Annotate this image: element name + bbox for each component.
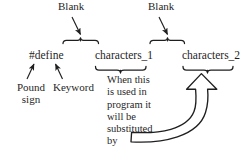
keyword-arrow (56, 64, 63, 79)
brace-characters-1 (96, 67, 147, 74)
pound-sign-arrow (27, 64, 34, 79)
characters-2-label: characters_2 (182, 49, 240, 61)
characters-1-label: characters_1 (95, 49, 153, 61)
brace-blank-left (63, 37, 99, 43)
substitution-note: When this is used in program it will be … (107, 74, 153, 148)
blank-right-arrow (159, 17, 168, 35)
pound-sign-label: Pound sign (11, 82, 51, 106)
blank-left-label: Blank (58, 1, 84, 13)
brace-characters-2 (183, 67, 233, 74)
keyword-label: Keyword (53, 82, 94, 94)
brace-blank-right (150, 37, 185, 43)
define-directive-label: #define (29, 49, 63, 61)
blank-left-arrow (72, 17, 81, 35)
define-syntax-diagram: Blank Blank #define characters_1 charact… (0, 0, 247, 150)
blank-right-label: Blank (148, 1, 174, 13)
